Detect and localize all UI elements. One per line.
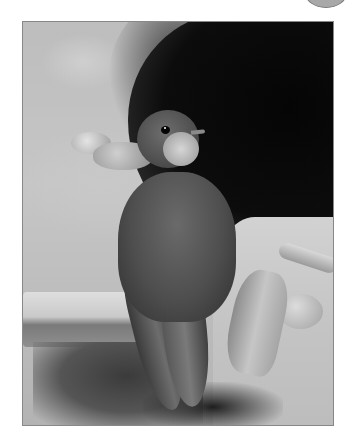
corner-circle-decoration	[305, 0, 347, 8]
eye-highlight	[164, 127, 166, 129]
bird-throat	[163, 132, 199, 166]
bird-body	[118, 172, 236, 322]
bird-photograph	[22, 21, 334, 426]
